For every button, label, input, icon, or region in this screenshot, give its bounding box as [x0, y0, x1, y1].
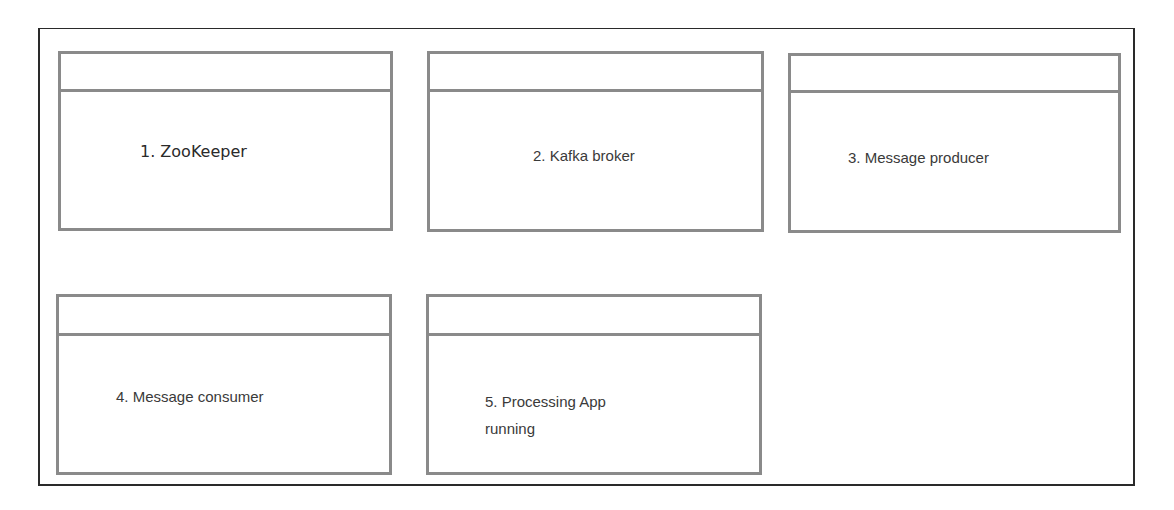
- window-label-line2: running: [485, 415, 535, 443]
- window-titlebar: [430, 54, 761, 92]
- window-label: 3. Message producer: [848, 144, 989, 172]
- window-label-line1: 5. Processing App: [485, 388, 606, 416]
- window-label: 2. Kafka broker: [533, 142, 635, 170]
- window-processing-app: 5. Processing App running: [426, 294, 762, 475]
- window-message-consumer: 4. Message consumer: [56, 294, 392, 475]
- window-titlebar: [429, 297, 759, 336]
- window-titlebar: [791, 56, 1118, 93]
- window-titlebar: [59, 297, 389, 336]
- window-kafka-broker: 2. Kafka broker: [427, 51, 764, 232]
- window-message-producer: 3. Message producer: [788, 53, 1121, 233]
- window-titlebar: [61, 54, 390, 92]
- window-label: 1. ZooKeeper: [140, 138, 247, 166]
- window-zookeeper: 1. ZooKeeper: [58, 51, 393, 231]
- window-label: 4. Message consumer: [116, 383, 264, 411]
